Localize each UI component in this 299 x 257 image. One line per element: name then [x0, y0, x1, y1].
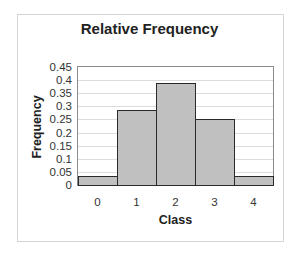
x-tick-label: 2: [166, 196, 186, 208]
x-tick-label: 3: [205, 196, 225, 208]
y-tick-label: 0: [32, 179, 72, 191]
chart-title: Relative Frequency: [0, 20, 299, 37]
bar-class-3: [195, 119, 235, 186]
bar-class-2: [156, 83, 196, 186]
y-tick-label: 0.05: [32, 166, 72, 178]
x-tick-label: 4: [244, 196, 264, 208]
x-tick-label: 1: [127, 196, 147, 208]
bar-class-4: [234, 176, 274, 186]
plot-area: [77, 66, 274, 186]
y-tick-label: 0.45: [32, 61, 72, 73]
x-tick-label: 0: [88, 196, 108, 208]
y-tick-label: 0.4: [32, 74, 72, 86]
y-axis-label: Frequency: [30, 95, 44, 158]
x-axis-label: Class: [77, 213, 274, 227]
bar-class-0: [78, 176, 118, 186]
bar-class-1: [117, 110, 157, 186]
gridline: [78, 80, 273, 81]
